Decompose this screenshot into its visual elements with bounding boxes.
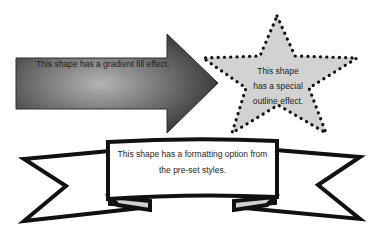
ribbon-label-line: This shape has a formatting option from [110, 146, 275, 162]
ribbon-label-line: the pre-set styles. [110, 162, 275, 178]
star-label-line: This shape [243, 64, 313, 79]
diagram-canvas [0, 0, 381, 239]
star-label-line: outline effect. [243, 94, 313, 109]
arrow-label: This shape has a gradient fill effect. [22, 59, 212, 70]
star-label: This shape has a special outline effect. [243, 64, 313, 109]
star-label-line: has a special [243, 79, 313, 94]
ribbon-label: This shape has a formatting option from … [110, 146, 275, 178]
gradient-arrow-shape[interactable] [16, 34, 218, 133]
